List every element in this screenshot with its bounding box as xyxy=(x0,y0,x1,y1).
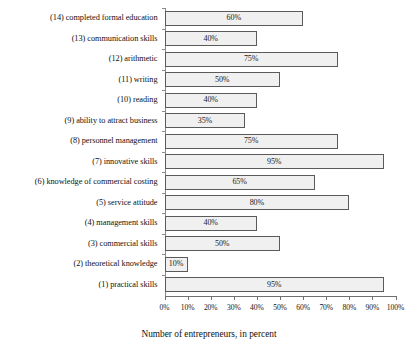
bar-row: 65% xyxy=(165,172,396,193)
bar-value-label: 95% xyxy=(166,278,383,291)
bar: 65% xyxy=(165,175,315,190)
category-label: (10) reading xyxy=(0,90,163,111)
bar-value-label: 40% xyxy=(166,94,256,107)
x-axis-tick xyxy=(280,296,281,300)
bar-row: 60% xyxy=(165,8,396,29)
bar: 95% xyxy=(165,154,384,169)
bar-row: 75% xyxy=(165,49,396,70)
bar-value-label: 75% xyxy=(166,53,337,66)
x-axis-tick xyxy=(211,296,212,300)
bar-value-label: 50% xyxy=(166,73,280,86)
bar: 50% xyxy=(165,72,281,87)
bar-row: 10% xyxy=(165,254,396,275)
bar-row: 75% xyxy=(165,131,396,152)
x-axis-tick xyxy=(396,296,397,300)
category-label: (13) communication skills xyxy=(0,29,163,50)
bar-value-label: 40% xyxy=(166,32,256,45)
bar-value-label: 80% xyxy=(166,196,349,209)
x-axis-tick-label: 100% xyxy=(381,303,411,312)
bar-row: 40% xyxy=(165,90,396,111)
bar: 35% xyxy=(165,113,246,128)
category-label: (12) arithmetic xyxy=(0,49,163,70)
category-label: (3) commercial skills xyxy=(0,234,163,255)
bar-chart: 60%40%75%50%40%35%75%95%65%80%40%50%10%9… xyxy=(0,0,418,349)
bar: 60% xyxy=(165,11,304,26)
category-label: (11) writing xyxy=(0,70,163,91)
bar-row: 40% xyxy=(165,29,396,50)
bar-value-label: 40% xyxy=(166,217,256,230)
x-axis-tick xyxy=(234,296,235,300)
x-axis-tick xyxy=(303,296,304,300)
category-label: (7) innovative skills xyxy=(0,152,163,173)
x-axis-tick xyxy=(165,296,166,300)
category-label: (9) ability to attract business xyxy=(0,111,163,132)
bar: 95% xyxy=(165,277,384,292)
x-axis-tick xyxy=(326,296,327,300)
bar: 40% xyxy=(165,216,257,231)
bar-row: 80% xyxy=(165,193,396,214)
x-axis-title: Number of entrepreneurs, in percent xyxy=(0,329,418,339)
bar-value-label: 35% xyxy=(166,114,245,127)
category-label: (5) service attitude xyxy=(0,193,163,214)
bar-row: 40% xyxy=(165,213,396,234)
x-axis-tick xyxy=(349,296,350,300)
bar: 40% xyxy=(165,31,257,46)
category-label: (6) knowledge of commercial costing xyxy=(0,172,163,193)
bar-row: 50% xyxy=(165,234,396,255)
bar: 75% xyxy=(165,134,338,149)
bar: 50% xyxy=(165,236,281,251)
bar-value-label: 10% xyxy=(166,258,187,271)
bar-row: 50% xyxy=(165,70,396,91)
bar: 75% xyxy=(165,52,338,67)
bar-value-label: 60% xyxy=(166,12,303,25)
category-label: (4) management skills xyxy=(0,213,163,234)
bar: 10% xyxy=(165,257,188,272)
bar: 40% xyxy=(165,93,257,108)
bar-row: 35% xyxy=(165,111,396,132)
category-label: (1) practical skills xyxy=(0,275,163,296)
bar-value-label: 95% xyxy=(166,155,383,168)
x-axis-tick xyxy=(372,296,373,300)
category-label: (14) completed formal education xyxy=(0,8,163,29)
category-label: (8) personnel management xyxy=(0,131,163,152)
x-axis-tick xyxy=(188,296,189,300)
bar-value-label: 65% xyxy=(166,176,314,189)
plot-area: 60%40%75%50%40%35%75%95%65%80%40%50%10%9… xyxy=(165,8,396,295)
bar-value-label: 50% xyxy=(166,237,280,250)
bar-row: 95% xyxy=(165,275,396,296)
bar-value-label: 75% xyxy=(166,135,337,148)
bar: 80% xyxy=(165,195,350,210)
x-axis-tick xyxy=(257,296,258,300)
bar-row: 95% xyxy=(165,152,396,173)
category-label: (2) theoretical knowledge xyxy=(0,254,163,275)
